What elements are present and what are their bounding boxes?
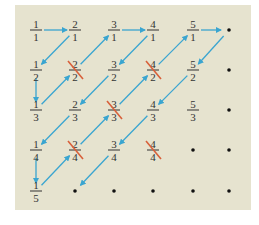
strike-through [68, 61, 83, 79]
strike-layer [0, 0, 259, 225]
strike-through [146, 141, 161, 159]
strike-through [146, 61, 161, 79]
strike-through [107, 101, 122, 119]
strike-through [68, 141, 83, 159]
